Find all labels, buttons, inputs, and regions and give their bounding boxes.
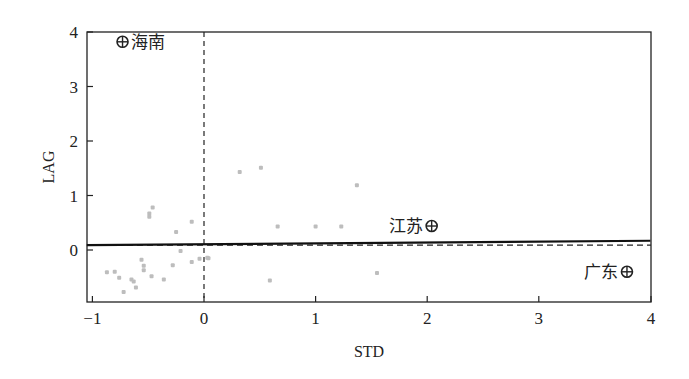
data-point: [142, 264, 146, 268]
point-label: 江苏: [389, 217, 423, 236]
data-point: [113, 270, 117, 274]
data-point: [339, 225, 343, 229]
x-tick-label: 4: [647, 309, 656, 328]
x-axis-ticks: −101234: [83, 296, 655, 328]
data-point: [355, 183, 359, 187]
labeled-point: 海南: [117, 33, 165, 52]
y-tick-label: 3: [70, 78, 79, 97]
data-point: [174, 230, 178, 234]
data-point: [375, 271, 379, 275]
data-point: [238, 170, 242, 174]
labeled-point: 江苏: [389, 217, 438, 236]
x-tick-label: 3: [535, 309, 544, 328]
y-tick-label: 4: [70, 23, 79, 42]
data-point: [117, 276, 121, 280]
plot-frame: [87, 32, 651, 302]
data-point: [276, 225, 280, 229]
data-point: [179, 249, 183, 253]
data-points: [105, 166, 379, 294]
x-tick-label: 0: [200, 309, 209, 328]
data-point: [190, 220, 194, 224]
data-point: [132, 280, 136, 284]
data-point: [198, 257, 202, 261]
x-tick-label: 2: [423, 309, 432, 328]
data-point: [140, 258, 144, 262]
reference-lines: [87, 32, 651, 302]
x-tick-label: 1: [311, 309, 320, 328]
y-tick-label: 0: [70, 241, 79, 260]
scatter-chart: 海南江苏广东 −101234 01234 STD LAG: [0, 0, 689, 379]
labeled-point: 广东: [584, 263, 633, 282]
data-point: [190, 260, 194, 264]
data-point: [259, 166, 263, 170]
y-axis-ticks: 01234: [70, 23, 94, 260]
x-axis-title: STD: [354, 343, 384, 360]
data-point: [150, 274, 154, 278]
y-axis-title: LAG: [40, 150, 57, 183]
data-point: [105, 270, 109, 274]
data-point: [147, 215, 151, 219]
data-point: [314, 225, 318, 229]
data-point: [268, 279, 272, 283]
point-label: 广东: [584, 263, 618, 282]
data-point: [134, 286, 138, 290]
data-point: [171, 263, 175, 267]
regression-line: [87, 241, 651, 245]
data-point: [151, 205, 155, 209]
data-point: [205, 256, 209, 260]
data-point: [162, 277, 166, 281]
y-tick-label: 1: [70, 187, 79, 206]
x-tick-label: −1: [83, 309, 101, 328]
data-point: [142, 268, 146, 272]
y-tick-label: 2: [70, 132, 79, 151]
point-label: 海南: [131, 33, 165, 52]
data-point: [122, 290, 126, 294]
